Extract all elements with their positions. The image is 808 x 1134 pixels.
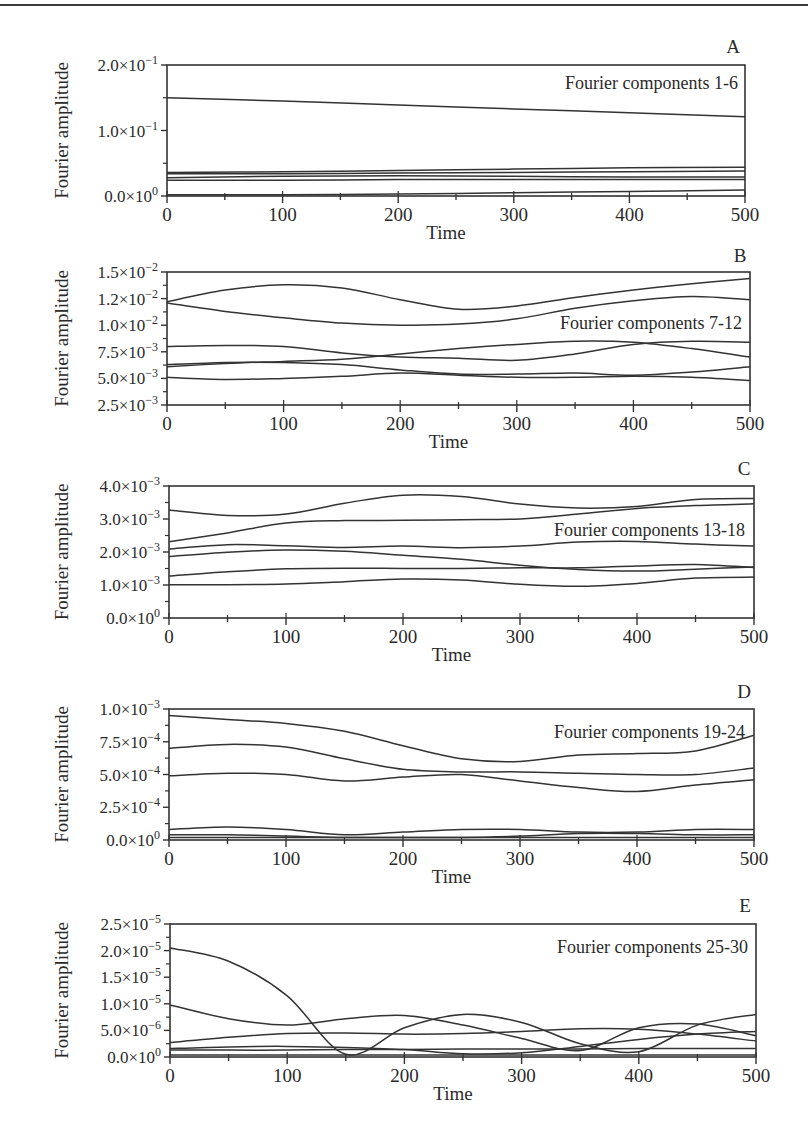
x-tick-label: 100 bbox=[272, 848, 301, 869]
panel-letter: B bbox=[734, 245, 747, 266]
y-tick-label: 0.0×100 bbox=[104, 184, 158, 206]
series-line bbox=[170, 1005, 756, 1051]
x-axis-label: Time bbox=[432, 644, 471, 665]
panel-letter: A bbox=[726, 36, 740, 57]
series-line bbox=[170, 1029, 756, 1043]
x-tick-label: 500 bbox=[731, 204, 760, 225]
y-tick-label: 1.0×10−5 bbox=[100, 992, 161, 1014]
x-tick-label: 400 bbox=[625, 1065, 654, 1086]
series-line bbox=[167, 98, 745, 117]
y-axis-label: Fourier amplitude bbox=[51, 484, 72, 621]
y-tick-label: 2.5×10−4 bbox=[99, 795, 160, 817]
x-tick-label: 400 bbox=[623, 848, 652, 869]
x-axis-label: Time bbox=[433, 1083, 472, 1104]
panel-title: Fourier components 25-30 bbox=[557, 937, 748, 957]
y-tick-label: 7.5×10−4 bbox=[99, 730, 160, 752]
panel-letter: C bbox=[738, 458, 751, 479]
x-tick-label: 200 bbox=[390, 1065, 419, 1086]
series-line bbox=[167, 362, 750, 375]
y-tick-label: 2.0×10−3 bbox=[99, 540, 160, 562]
x-tick-label: 400 bbox=[615, 204, 644, 225]
plot-frame bbox=[167, 272, 750, 405]
x-tick-label: 0 bbox=[164, 848, 174, 869]
y-tick-label: 1.0×10−3 bbox=[99, 573, 160, 595]
series-line bbox=[167, 341, 750, 360]
x-tick-label: 200 bbox=[389, 848, 418, 869]
y-axis-label: Fourier amplitude bbox=[51, 922, 72, 1059]
x-tick-label: 200 bbox=[386, 413, 415, 434]
x-tick-label: 300 bbox=[503, 413, 532, 434]
y-axis-label: Fourier amplitude bbox=[51, 706, 72, 843]
x-tick-label: 0 bbox=[162, 204, 172, 225]
panel-letter: E bbox=[739, 895, 751, 916]
x-tick-label: 0 bbox=[162, 413, 172, 434]
y-tick-label: 0.0×100 bbox=[106, 606, 160, 628]
y-tick-label: 2.0×10−1 bbox=[97, 53, 158, 75]
x-axis-label: Time bbox=[429, 431, 468, 452]
x-tick-label: 400 bbox=[623, 626, 652, 647]
y-tick-label: 2.5×10−5 bbox=[100, 912, 161, 934]
series-line bbox=[167, 190, 745, 195]
series-line bbox=[170, 1048, 756, 1050]
x-tick-label: 300 bbox=[507, 1065, 536, 1086]
panel-c: 01002003004005000.0×1001.0×10−32.0×10−33… bbox=[51, 458, 768, 665]
y-tick-label: 1.5×10−5 bbox=[100, 965, 161, 987]
panel-title: Fourier components 13-18 bbox=[554, 520, 745, 540]
x-tick-label: 500 bbox=[740, 848, 769, 869]
series-line bbox=[167, 180, 745, 181]
y-tick-label: 2.5×10−3 bbox=[97, 393, 158, 415]
series-line bbox=[169, 541, 754, 549]
y-tick-label: 4.0×10−3 bbox=[99, 474, 160, 496]
x-tick-label: 100 bbox=[268, 204, 297, 225]
x-tick-label: 200 bbox=[389, 626, 418, 647]
panel-b: 01002003004005002.5×10−35.0×10−37.5×10−3… bbox=[51, 245, 764, 452]
y-tick-label: 0.0×100 bbox=[106, 828, 160, 850]
series-line bbox=[169, 773, 754, 791]
panel-d: 01002003004005000.0×1002.5×10−45.0×10−47… bbox=[51, 681, 768, 887]
y-tick-label: 2.0×10−5 bbox=[100, 939, 161, 961]
panel-title: Fourier components 1-6 bbox=[565, 73, 738, 93]
x-tick-label: 300 bbox=[506, 626, 535, 647]
panel-title: Fourier components 7-12 bbox=[560, 313, 742, 333]
figure: 01002003004005000.0×1001.0×10−12.0×10−1F… bbox=[0, 0, 808, 1134]
y-tick-label: 3.0×10−3 bbox=[99, 507, 160, 529]
x-tick-label: 500 bbox=[740, 626, 769, 647]
y-tick-label: 1.0×10−1 bbox=[97, 119, 158, 141]
x-tick-label: 500 bbox=[736, 413, 765, 434]
y-tick-label: 7.5×10−3 bbox=[97, 340, 158, 362]
x-tick-label: 500 bbox=[742, 1065, 771, 1086]
y-tick-label: 5.0×10−6 bbox=[100, 1018, 161, 1040]
y-axis-label: Fourier amplitude bbox=[51, 62, 72, 199]
y-tick-label: 1.2×10−2 bbox=[97, 287, 158, 309]
x-tick-label: 100 bbox=[273, 1065, 302, 1086]
series-line bbox=[169, 744, 754, 775]
y-axis-label: Fourier amplitude bbox=[51, 270, 72, 407]
x-tick-label: 300 bbox=[506, 848, 535, 869]
panel-letter: D bbox=[737, 681, 751, 702]
x-axis-label: Time bbox=[432, 866, 471, 887]
x-tick-label: 100 bbox=[272, 626, 301, 647]
y-tick-label: 1.0×10−2 bbox=[97, 313, 158, 335]
y-tick-label: 5.0×10−4 bbox=[99, 763, 160, 785]
plot-frame bbox=[169, 486, 754, 618]
panel-a: 01002003004005000.0×1001.0×10−12.0×10−1F… bbox=[51, 36, 759, 243]
y-tick-label: 1.5×10−2 bbox=[97, 260, 158, 282]
x-tick-label: 200 bbox=[384, 204, 413, 225]
x-tick-label: 0 bbox=[165, 1065, 175, 1086]
x-tick-label: 300 bbox=[500, 204, 529, 225]
x-tick-label: 0 bbox=[164, 626, 174, 647]
series-line bbox=[169, 495, 754, 516]
y-tick-label: 5.0×10−3 bbox=[97, 366, 158, 388]
y-tick-label: 0.0×100 bbox=[107, 1045, 161, 1067]
series-line bbox=[167, 176, 745, 178]
series-line bbox=[169, 577, 754, 586]
series-line bbox=[167, 278, 750, 309]
x-tick-label: 400 bbox=[619, 413, 648, 434]
panel-e: 01002003004005000.0×1005.0×10−61.0×10−51… bbox=[51, 895, 770, 1104]
x-axis-label: Time bbox=[426, 222, 465, 243]
y-tick-label: 1.0×10−3 bbox=[99, 697, 160, 719]
series-line bbox=[170, 948, 756, 1055]
panel-title: Fourier components 19-24 bbox=[554, 722, 745, 742]
x-tick-label: 100 bbox=[269, 413, 298, 434]
